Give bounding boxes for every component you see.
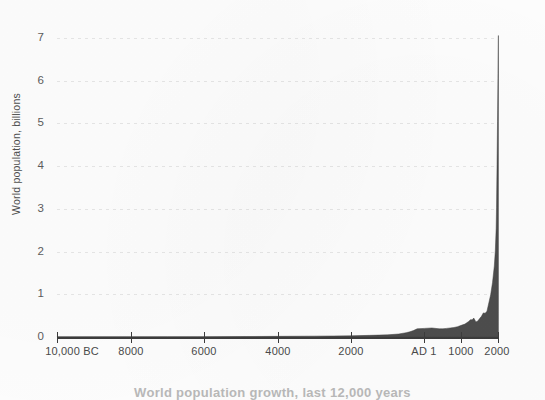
x-tick-label-10000bc: 10,000 BC (45, 345, 99, 357)
figure-caption: World population growth, last 12,000 yea… (0, 385, 545, 400)
x-tick-label-4000: 4000 (265, 345, 290, 357)
x-tick-label-2000ad: 2000 (484, 345, 509, 357)
x-tick-label-ad1: AD 1 (411, 345, 436, 357)
y-tick-label-2: 2 (14, 246, 44, 258)
population-growth-chart-figure: 7 6 5 4 3 2 1 0 World population, billio… (0, 0, 545, 400)
x-tick-label-6000: 6000 (191, 345, 216, 357)
y-tick-label-7: 7 (14, 32, 44, 44)
x-tick-label-1000: 1000 (448, 345, 473, 357)
x-tick-mark-6000 (204, 332, 205, 343)
y-tick-label-0: 0 (14, 331, 44, 343)
x-tick-mark-2000bc (351, 332, 352, 343)
x-tick-mark-ad1 (424, 332, 425, 343)
x-tick-label-2000bc: 2000 (338, 345, 363, 357)
y-axis-title: World population, billions (10, 74, 22, 234)
x-tick-label-8000: 8000 (118, 345, 143, 357)
area-fill-path (57, 36, 498, 337)
x-tick-mark-10000bc (57, 332, 58, 343)
y-tick-label-1: 1 (14, 288, 44, 300)
y-axis-tick-labels: 7 6 5 4 3 2 1 0 (0, 0, 57, 400)
x-tick-mark-8000 (131, 332, 132, 343)
x-tick-mark-2000ad (498, 332, 499, 343)
x-tick-mark-4000 (278, 332, 279, 343)
x-tick-mark-1000 (461, 332, 462, 343)
population-area-series (57, 14, 499, 338)
